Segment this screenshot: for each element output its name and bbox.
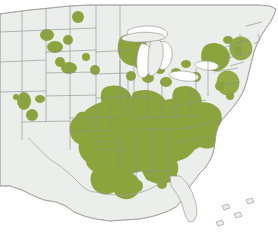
map-canvas [0, 0, 278, 234]
distribution-map-figure [0, 0, 278, 234]
bahama-islets [216, 198, 254, 226]
